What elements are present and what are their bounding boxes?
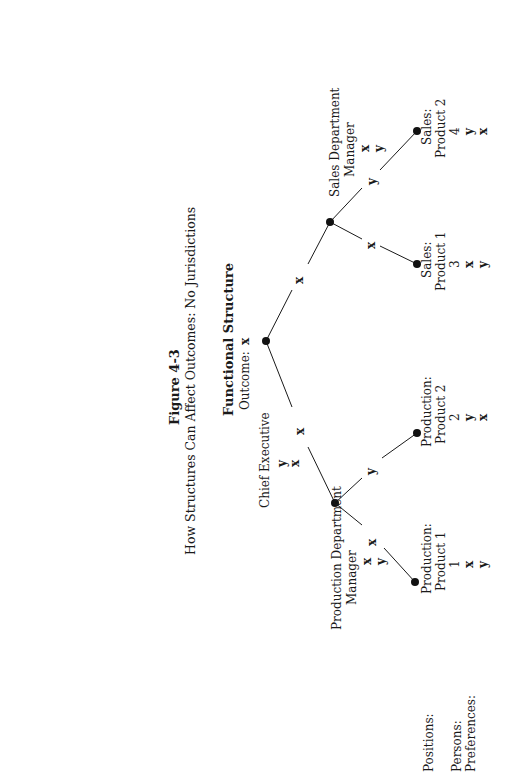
edge-label-sales-s2: y [365,178,379,185]
leaf-production-p1-person: 1 [448,560,462,568]
leaf-production-p1-pref-2: y [476,561,490,568]
chief-executive-label: Chief Executive [258,412,272,508]
edge-label-production-p1: x [365,539,379,546]
sales-manager-label-line2: Manager [343,122,357,177]
figure-caption: How Structures Can Affect Outcomes: No J… [184,207,198,555]
row-label-persons: Persons: [450,720,464,772]
chief-executive-pref-1: y [275,460,289,467]
leaf-production-p2-person: 2 [448,413,462,421]
leaf-sales-p1-pref-2: y [476,261,490,268]
leaf-sales-p1-position-line2: Product 1 [434,232,448,291]
structure-title: Functional Structure [222,263,236,416]
leaf-sales-p1-person: 3 [448,260,462,268]
row-label-positions: Positions: [422,713,436,772]
edge-label-root-sales: x [292,277,306,284]
node-sales-manager [326,218,334,226]
production-manager-pref-2: y [374,558,388,565]
leaf-sales-p1-position-line1: Sales: [420,241,434,278]
leaf-production-p2-pref-1: y [462,414,476,421]
edge-label-production-p2: y [364,468,378,475]
outcome-label: Outcome: [238,351,252,410]
leaf-production-p2-position-line2: Product 2 [434,385,448,444]
edge-root-sales [266,290,292,341]
production-manager-pref-1: x [360,558,374,565]
sales-manager-label-line1: Sales Department [328,88,342,197]
leaf-sales-p2-position-line1: Sales: [420,108,434,145]
node-root [262,337,270,345]
chief-executive-pref-2: x [288,460,302,467]
leaf-production-p2-pref-2: x [476,414,490,421]
outcome-value: x [238,338,252,345]
sales-manager-pref-1: x [358,145,372,152]
edge-sales-s1 [330,222,362,239]
leaf-sales-p1-pref-1: x [462,261,476,268]
edge-sales-s1-lower [380,246,417,264]
leaf-sales-p2-pref-2: x [476,128,490,135]
production-manager-label-line2: Manager [345,550,359,605]
leaf-sales-p2-person: 4 [448,127,462,135]
edge-root-production [266,341,292,407]
production-manager-label-line1: Production Department [330,486,344,630]
leaf-sales-p2-position-line2: Product 2 [434,99,448,158]
document-page: Figure 4-3 How Structures Can Affect Out… [0,0,521,784]
sales-manager-pref-2: y [372,145,386,152]
edge-label-root-production: x [293,428,307,435]
leaf-sales-p2-pref-1: y [462,128,476,135]
figure-number: Figure 4-3 [168,349,182,425]
edge-production-p1-lower [384,548,415,582]
leaf-production-p1-position-line1: Production: [420,523,434,594]
node-production-p1 [411,578,419,586]
leaf-production-p1-position-line2: Product 1 [434,532,448,591]
leaf-production-p2-position-line1: Production: [420,376,434,447]
edge-label-sales-s1: x [364,242,378,249]
leaf-production-p1-pref-1: x [462,561,476,568]
edge-production-p2-upper [382,433,417,458]
row-label-preferences: Preferences: [464,695,478,772]
edge-root-sales-upper [308,222,330,264]
